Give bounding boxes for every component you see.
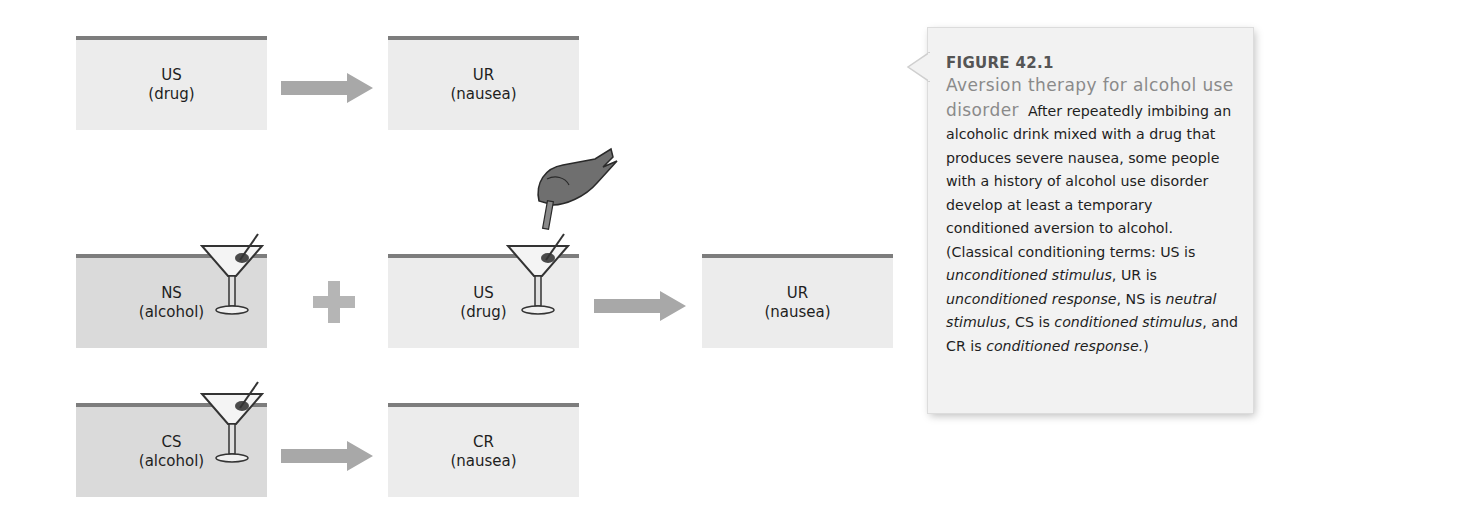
arrow-right-icon	[281, 441, 373, 471]
term-cs: conditioned stimulus	[1054, 314, 1202, 330]
ur-nausea-box-row2: UR (nausea)	[702, 254, 893, 348]
term-cr: conditioned response.	[986, 338, 1143, 354]
us-drug-box-row1: US (drug)	[76, 36, 267, 130]
node-term: CR	[473, 433, 494, 452]
caption-text: )	[1143, 338, 1149, 354]
node-term: NS	[161, 284, 182, 303]
martini-glass-icon	[506, 232, 570, 318]
node-desc: (nausea)	[450, 85, 516, 104]
node-desc: (nausea)	[764, 303, 830, 322]
arrow-right-icon	[281, 73, 373, 103]
figure-number: FIGURE 42.1	[946, 52, 1239, 74]
node-desc: (drug)	[460, 303, 506, 322]
figure-caption: FIGURE 42.1 Aversion therapy for alcohol…	[928, 28, 1253, 413]
node-desc: (drug)	[148, 85, 194, 104]
term-us: unconditioned stimulus	[946, 267, 1112, 283]
caption-body: Aversion therapy for alcohol use disorde…	[946, 74, 1239, 358]
caption-text: , NS is	[1117, 291, 1166, 307]
ur-nausea-box-row1: UR (nausea)	[388, 36, 579, 130]
plus-icon	[313, 281, 355, 323]
caption-pointer-icon	[906, 52, 930, 82]
caption-text: , CS is	[1006, 314, 1054, 330]
node-desc: (nausea)	[450, 452, 516, 471]
caption-text: After repeatedly imbibing an alcoholic d…	[946, 103, 1231, 260]
arrow-right-icon	[594, 291, 686, 321]
martini-glass-icon	[200, 380, 264, 466]
node-term: US	[161, 66, 182, 85]
node-term: UR	[473, 66, 494, 85]
martini-glass-icon	[200, 232, 264, 318]
cr-nausea-box: CR (nausea)	[388, 403, 579, 497]
term-ur: unconditioned response	[946, 291, 1117, 307]
caption-text: , UR is	[1112, 267, 1157, 283]
node-term: UR	[787, 284, 808, 303]
node-term: US	[473, 284, 494, 303]
node-term: CS	[162, 433, 182, 452]
node-desc: (alcohol)	[139, 452, 204, 471]
node-desc: (alcohol)	[139, 303, 204, 322]
